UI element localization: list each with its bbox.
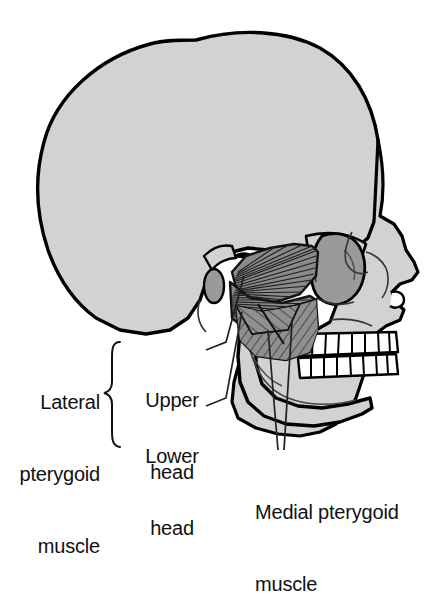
external-acoustic-meatus bbox=[204, 269, 224, 303]
label-medial-pterygoid-muscle: Medial pterygoid muscle bbox=[255, 452, 435, 595]
lower-teeth bbox=[298, 354, 398, 378]
label-lateral-line-2: pterygoid bbox=[16, 462, 100, 486]
label-lower-line-1: Lower bbox=[134, 444, 210, 468]
label-lateral-line-1: Lateral bbox=[16, 390, 100, 414]
mastoid-line bbox=[198, 300, 206, 332]
lower-teeth-band bbox=[298, 354, 398, 378]
label-lateral-pterygoid-muscle: Lateral pterygoid muscle bbox=[16, 342, 100, 582]
nasal-aperture bbox=[390, 291, 404, 307]
lateral-pterygoid-brace bbox=[104, 342, 120, 447]
label-medial-line-2: muscle bbox=[255, 572, 435, 595]
label-lower-line-2: head bbox=[134, 516, 210, 540]
brace-path bbox=[104, 342, 120, 447]
label-lateral-line-3: muscle bbox=[16, 534, 100, 558]
label-lower-head: Lower head bbox=[134, 396, 210, 564]
label-medial-line-1: Medial pterygoid bbox=[255, 500, 435, 524]
orbit bbox=[311, 234, 365, 305]
